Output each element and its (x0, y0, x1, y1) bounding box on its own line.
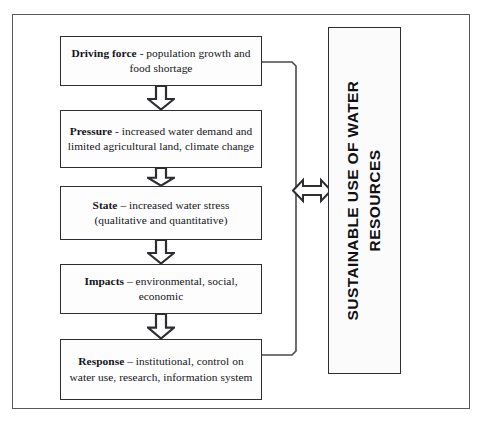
diagram-canvas: Driving force - population growth and fo… (0, 0, 480, 422)
banner-label: SUSTAINABLE USE OF WATERRESOURCES (342, 81, 387, 321)
down-arrow-icon-state-to-impacts (147, 240, 175, 264)
flow-box-pressure-text: Pressure - increased water demand and li… (67, 124, 255, 154)
flow-box-response: Response – institutional, control on wat… (60, 339, 262, 400)
flow-box-response-text: Response – institutional, control on wat… (67, 354, 255, 384)
flow-box-driving-force-text: Driving force - population growth and fo… (67, 46, 255, 76)
flow-box-pressure-lead: Pressure (70, 125, 112, 137)
flow-box-driving-force-rest: - population growth and food shortage (130, 47, 251, 74)
flow-box-impacts-rest: – environmental, social, economic (124, 275, 238, 302)
down-arrow-icon-pressure-to-state (147, 168, 175, 186)
flow-box-state-text: State – increased water stress (qualitat… (67, 198, 255, 228)
flow-box-impacts-text: Impacts – environmental, social, economi… (67, 274, 255, 304)
flow-box-state: State – increased water stress (qualitat… (60, 186, 262, 240)
flow-box-driving-force: Driving force - population growth and fo… (60, 36, 262, 86)
down-arrow-icon-driving-force-to-pressure (147, 86, 175, 110)
banner-sustainable-use-of-water-resources: SUSTAINABLE USE OF WATERRESOURCES (328, 27, 401, 374)
down-arrow-icon-impacts-to-response (147, 314, 175, 339)
flow-box-impacts-lead: Impacts (84, 275, 124, 287)
flow-box-driving-force-lead: Driving force (71, 47, 136, 59)
flow-box-pressure: Pressure - increased water demand and li… (60, 110, 262, 168)
double-headed-arrow-icon (292, 176, 332, 205)
flow-box-impacts: Impacts – environmental, social, economi… (60, 264, 262, 314)
flow-box-response-lead: Response (78, 355, 124, 367)
flow-box-state-lead: State (93, 199, 118, 211)
